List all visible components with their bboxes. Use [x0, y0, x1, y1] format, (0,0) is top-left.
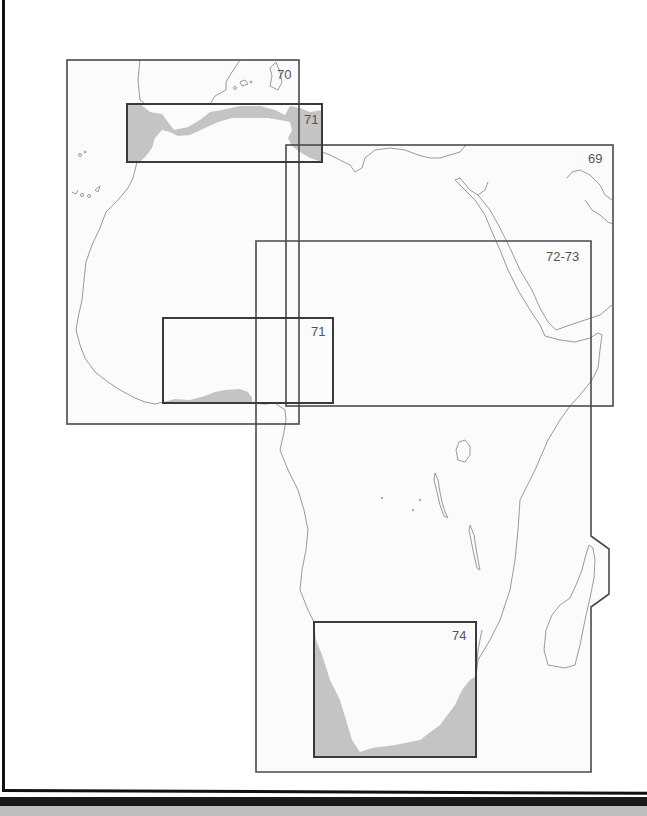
sheet-label-74: 74 — [452, 628, 466, 643]
footer-band-dark — [0, 797, 647, 806]
footer-band-gray — [0, 806, 647, 816]
sheet-label-71-south: 71 — [311, 324, 325, 339]
sheet-label-72-73: 72-73 — [546, 249, 579, 264]
sheet-backgrounds — [67, 60, 613, 772]
sheet-label-70: 70 — [277, 67, 291, 82]
sheet-label-69: 69 — [588, 151, 602, 166]
map-index-page: 70 71 69 72-73 71 74 — [0, 0, 647, 816]
sheet-label-71-north: 71 — [304, 112, 318, 127]
africa-map: 70 71 69 72-73 71 74 — [0, 0, 647, 790]
